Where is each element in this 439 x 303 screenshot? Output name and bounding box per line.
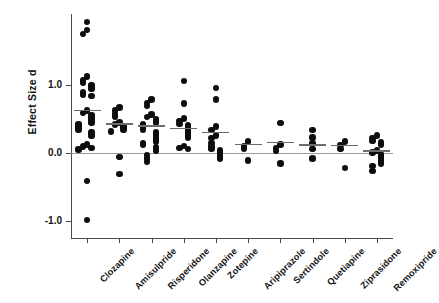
data-point bbox=[88, 145, 94, 151]
x-label-clozapine: Clozapine bbox=[98, 246, 136, 284]
y-tick-label: 1.0 bbox=[22, 79, 62, 90]
data-point bbox=[176, 121, 182, 127]
data-point bbox=[185, 146, 191, 152]
y-tick-mark bbox=[66, 221, 71, 222]
data-point bbox=[378, 160, 384, 166]
data-point bbox=[144, 114, 150, 120]
data-point bbox=[144, 103, 150, 109]
mean-bar-amisulpride bbox=[106, 123, 133, 124]
data-point bbox=[241, 145, 247, 151]
data-point bbox=[309, 146, 315, 152]
data-point bbox=[75, 147, 81, 153]
data-point bbox=[80, 31, 86, 37]
data-point bbox=[140, 142, 146, 148]
data-point bbox=[369, 138, 375, 144]
mean-bar-sertindole bbox=[267, 142, 294, 143]
mean-bar-quetiapine bbox=[299, 144, 326, 145]
x-tick-mark bbox=[184, 238, 185, 243]
x-tick-mark bbox=[216, 238, 217, 243]
data-point bbox=[140, 127, 146, 133]
mean-bar-olanzapine bbox=[170, 128, 197, 129]
y-axis-line bbox=[71, 14, 72, 238]
data-point bbox=[88, 133, 94, 139]
data-point bbox=[337, 146, 343, 152]
x-tick-mark bbox=[248, 238, 249, 243]
data-point bbox=[120, 127, 126, 133]
data-point bbox=[245, 157, 251, 163]
data-point bbox=[213, 85, 219, 91]
data-point bbox=[108, 128, 114, 134]
data-point bbox=[369, 168, 375, 174]
x-tick-mark bbox=[313, 238, 314, 243]
mean-bar-ziprasidone bbox=[331, 145, 358, 146]
x-tick-mark bbox=[280, 238, 281, 243]
y-tick-mark bbox=[66, 85, 71, 86]
x-tick-mark bbox=[377, 238, 378, 243]
data-point bbox=[342, 165, 348, 171]
data-point bbox=[208, 145, 214, 151]
data-point bbox=[181, 100, 187, 106]
data-point bbox=[378, 141, 384, 147]
data-point bbox=[277, 160, 283, 166]
data-point bbox=[277, 120, 283, 126]
data-point bbox=[144, 159, 150, 165]
y-tick-label: 0.0 bbox=[22, 147, 62, 158]
data-point bbox=[217, 155, 223, 161]
mean-bar-aripiprazole bbox=[235, 144, 262, 145]
data-point bbox=[88, 93, 94, 99]
data-point bbox=[84, 19, 90, 25]
data-point bbox=[309, 155, 315, 161]
data-point bbox=[185, 134, 191, 140]
data-point bbox=[80, 80, 86, 86]
mean-bar-remoxipride bbox=[363, 150, 390, 151]
mean-bar-clozapine bbox=[74, 110, 101, 111]
data-point bbox=[213, 96, 219, 102]
x-tick-mark bbox=[119, 238, 120, 243]
mean-bar-risperidone bbox=[138, 125, 165, 126]
mean-bar-zotepine bbox=[202, 132, 229, 133]
data-point bbox=[176, 145, 182, 151]
x-tick-mark bbox=[345, 238, 346, 243]
data-point bbox=[309, 127, 315, 133]
data-point bbox=[80, 92, 86, 98]
data-point bbox=[116, 171, 122, 177]
y-tick-mark bbox=[66, 153, 71, 154]
x-tick-mark bbox=[152, 238, 153, 243]
data-point bbox=[88, 119, 94, 125]
x-tick-mark bbox=[87, 238, 88, 243]
data-point bbox=[75, 127, 81, 133]
data-point bbox=[181, 78, 187, 84]
data-point bbox=[116, 154, 122, 160]
y-tick-label: -1.0 bbox=[22, 215, 62, 226]
data-point bbox=[84, 178, 90, 184]
data-point bbox=[88, 86, 94, 92]
data-point bbox=[84, 217, 90, 223]
